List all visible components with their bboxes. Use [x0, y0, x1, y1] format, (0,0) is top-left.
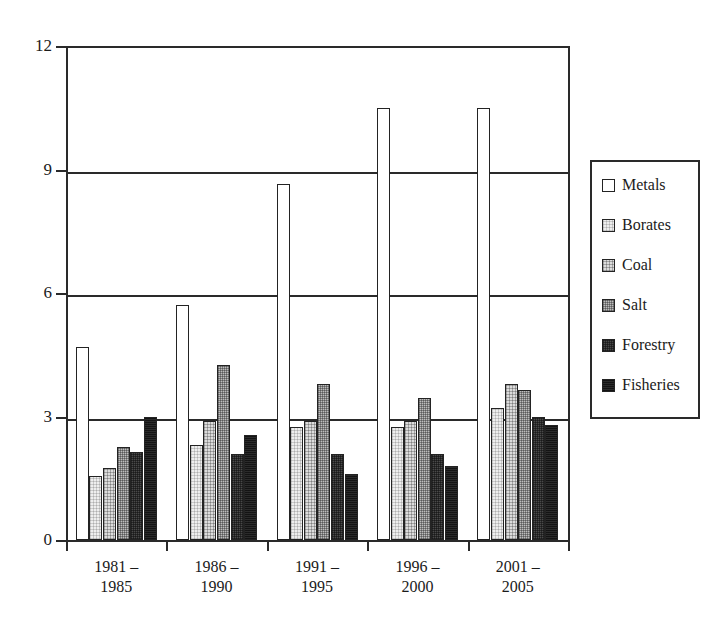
legend-label: Coal	[622, 257, 652, 273]
legend-swatch-icon	[602, 379, 615, 392]
chart-legend: MetalsBoratesCoalSaltForestryFisheries	[590, 160, 700, 419]
x-tick-label: 1991 –1995	[262, 557, 372, 597]
bar	[231, 454, 244, 540]
bar	[76, 347, 89, 540]
bar-chart-figure: 036912 1981 –19851986 –19901991 –1995199…	[0, 0, 723, 620]
x-tick-label: 2001 –2005	[463, 557, 573, 597]
legend-swatch-icon	[602, 179, 615, 192]
y-tick-mark	[56, 46, 66, 48]
bar	[532, 417, 545, 541]
bar	[491, 408, 504, 540]
legend-swatch-icon	[602, 299, 615, 312]
bar	[176, 305, 189, 540]
y-tick-mark	[56, 417, 66, 419]
x-tick-mark	[468, 540, 470, 551]
bar	[477, 108, 490, 540]
bar	[203, 421, 216, 540]
legend-item: Borates	[602, 214, 671, 236]
x-tick-label: 1981 –1985	[61, 557, 171, 597]
y-tick-mark	[56, 170, 66, 172]
x-tick-label-line1: 1981 –	[94, 558, 138, 575]
y-tick-label: 0	[18, 531, 52, 548]
bar	[144, 417, 157, 541]
bar	[445, 466, 458, 540]
x-tick-label: 1996 –2000	[362, 557, 472, 597]
x-tick-label-line1: 1996 –	[395, 558, 439, 575]
legend-item: Forestry	[602, 334, 675, 356]
bar	[277, 184, 290, 540]
x-tick-label-line1: 1991 –	[295, 558, 339, 575]
x-tick-label-line1: 2001 –	[496, 558, 540, 575]
bar	[345, 474, 358, 540]
x-tick-mark	[66, 540, 68, 551]
y-tick-label: 12	[18, 37, 52, 54]
bar	[431, 454, 444, 540]
x-tick-label-line1: 1986 –	[195, 558, 239, 575]
x-tick-label-line2: 2005	[463, 577, 573, 597]
x-tick-mark	[568, 540, 570, 551]
x-tick-mark	[367, 540, 369, 551]
bar	[244, 435, 257, 540]
bar	[190, 445, 203, 540]
bar	[317, 384, 330, 540]
x-tick-label: 1986 –1990	[162, 557, 272, 597]
bar	[331, 454, 344, 540]
legend-label: Forestry	[622, 337, 675, 353]
bar	[505, 384, 518, 540]
bar	[418, 398, 431, 540]
bar	[545, 425, 558, 540]
y-tick-mark	[56, 540, 66, 542]
legend-item: Fisheries	[602, 374, 680, 396]
bar	[103, 468, 116, 540]
legend-swatch-icon	[602, 339, 615, 352]
bar	[290, 427, 303, 540]
bar	[404, 421, 417, 540]
legend-label: Borates	[622, 217, 671, 233]
y-tick-label: 6	[18, 284, 52, 301]
bar	[130, 452, 143, 541]
legend-item: Metals	[602, 174, 666, 196]
legend-label: Metals	[622, 177, 666, 193]
bar	[89, 476, 102, 540]
legend-swatch-icon	[602, 259, 615, 272]
legend-label: Salt	[622, 297, 647, 313]
x-axis-baseline	[66, 540, 568, 542]
bar	[304, 421, 317, 540]
y-tick-label: 3	[18, 408, 52, 425]
x-tick-label-line2: 1995	[262, 577, 372, 597]
x-tick-label-line2: 1985	[61, 577, 171, 597]
bar	[391, 427, 404, 540]
bar	[518, 390, 531, 540]
x-tick-label-line2: 2000	[362, 577, 472, 597]
y-tick-mark	[56, 293, 66, 295]
legend-item: Coal	[602, 254, 652, 276]
legend-item: Salt	[602, 294, 647, 316]
y-tick-label: 9	[18, 161, 52, 178]
legend-swatch-icon	[602, 219, 615, 232]
x-tick-mark	[166, 540, 168, 551]
bar	[117, 447, 130, 540]
x-tick-label-line2: 1990	[162, 577, 272, 597]
bar	[377, 108, 390, 540]
bar	[217, 365, 230, 540]
bars-layer	[66, 46, 568, 540]
x-tick-mark	[267, 540, 269, 551]
legend-label: Fisheries	[622, 377, 680, 393]
plot-right-border	[568, 46, 570, 540]
